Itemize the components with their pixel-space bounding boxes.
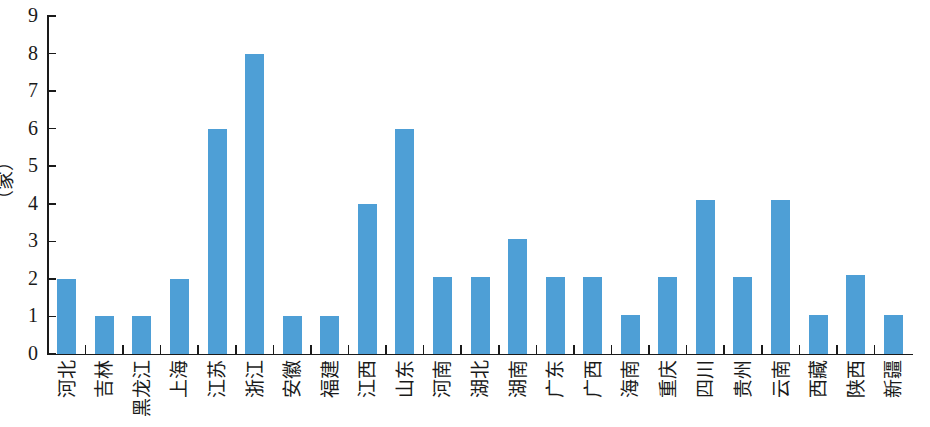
x-axis-label: 贵州	[732, 360, 754, 424]
x-axis-label: 山东	[394, 360, 416, 424]
x-tick-mark	[648, 345, 650, 354]
bar	[433, 277, 452, 354]
x-axis-label: 湖北	[469, 360, 491, 424]
x-tick-mark	[761, 345, 763, 354]
bar	[733, 277, 752, 354]
bar	[696, 200, 715, 354]
x-tick-mark	[686, 345, 688, 354]
x-tick-mark	[197, 345, 199, 354]
x-tick-mark	[310, 345, 312, 354]
x-tick-mark	[385, 345, 387, 354]
bar	[771, 200, 790, 354]
x-axis-label: 上海	[168, 360, 190, 424]
x-axis-label: 黑龙江	[131, 360, 153, 427]
x-tick-mark	[273, 345, 275, 354]
x-axis-label: 广西	[582, 360, 604, 424]
x-tick-mark	[122, 345, 124, 354]
x-axis-label: 安徽	[281, 360, 303, 424]
bar	[471, 277, 490, 354]
bar	[95, 316, 114, 354]
bar	[809, 315, 828, 354]
x-tick-mark	[536, 345, 538, 354]
bar	[508, 239, 527, 354]
bar	[170, 279, 189, 354]
x-axis-label: 陕西	[845, 360, 867, 424]
x-tick-mark	[498, 345, 500, 354]
x-tick-mark	[723, 345, 725, 354]
bar	[358, 204, 377, 354]
bar	[583, 277, 602, 354]
bar	[132, 316, 151, 354]
x-axis-label: 浙江	[244, 360, 266, 424]
y-tick-label: 1	[10, 305, 38, 325]
bar	[658, 277, 677, 354]
x-axis-label: 西藏	[807, 360, 829, 424]
x-tick-mark	[836, 345, 838, 354]
x-tick-mark	[160, 345, 162, 354]
y-tick-label: 0	[10, 343, 38, 363]
x-axis-label: 云南	[770, 360, 792, 424]
bar	[245, 54, 264, 354]
x-axis-label: 河北	[56, 360, 78, 424]
bar	[546, 277, 565, 354]
plot-area	[48, 16, 912, 354]
x-tick-mark	[85, 345, 87, 354]
x-axis-label: 重庆	[657, 360, 679, 424]
x-axis-label: 河南	[431, 360, 453, 424]
y-tick-label: 7	[10, 80, 38, 100]
x-axis-label: 四川	[694, 360, 716, 424]
x-axis-label: 吉林	[93, 360, 115, 424]
bar	[208, 129, 227, 354]
x-axis-label: 海南	[619, 360, 641, 424]
bar	[884, 315, 903, 354]
x-tick-mark	[874, 345, 876, 354]
bar-chart: （家） 0123456789 河北吉林黑龙江上海江苏浙江安徽福建江西山东河南湖北…	[0, 0, 930, 427]
x-tick-mark	[423, 345, 425, 354]
x-tick-mark	[611, 345, 613, 354]
x-axis-label: 新疆	[882, 360, 904, 424]
y-tick-label: 3	[10, 230, 38, 250]
y-tick-label: 6	[10, 118, 38, 138]
bar	[846, 275, 865, 354]
bar	[320, 316, 339, 354]
x-axis-label: 广东	[544, 360, 566, 424]
bar	[621, 315, 640, 354]
x-axis-label: 江苏	[206, 360, 228, 424]
x-axis-label: 江西	[356, 360, 378, 424]
bar	[395, 129, 414, 354]
bar	[283, 316, 302, 354]
x-tick-mark	[235, 345, 237, 354]
x-tick-mark	[460, 345, 462, 354]
x-tick-mark	[573, 345, 575, 354]
y-tick-label: 4	[10, 193, 38, 213]
x-axis-label: 湖南	[507, 360, 529, 424]
y-tick-label: 8	[10, 43, 38, 63]
y-tick-label: 2	[10, 268, 38, 288]
x-tick-mark	[799, 345, 801, 354]
y-tick-label: 9	[10, 5, 38, 25]
y-tick-label: 5	[10, 155, 38, 175]
x-tick-mark	[348, 345, 350, 354]
bar	[57, 279, 76, 354]
x-axis-label: 福建	[319, 360, 341, 424]
